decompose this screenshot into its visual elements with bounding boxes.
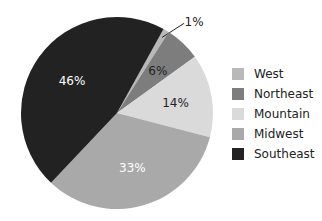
legend-item-southeast: Southeast (232, 144, 315, 164)
slice-label: 6% (148, 64, 167, 78)
slice-label: 33% (119, 161, 146, 175)
legend-label: Midwest (254, 127, 303, 141)
legend-swatch (232, 148, 244, 160)
legend-label: Mountain (254, 107, 310, 121)
legend-swatch (232, 88, 244, 100)
legend-swatch (232, 108, 244, 120)
legend-swatch (232, 68, 244, 80)
legend-label: Northeast (254, 87, 313, 101)
slice-label: 46% (59, 74, 86, 88)
legend-item-northeast: Northeast (232, 84, 315, 104)
legend-item-west: West (232, 64, 315, 84)
legend-label: West (254, 67, 284, 81)
legend-swatch (232, 128, 244, 140)
slice-label: 1% (185, 15, 204, 29)
legend-label: Southeast (254, 147, 315, 161)
legend-item-mountain: Mountain (232, 104, 315, 124)
slice-label: 14% (162, 96, 189, 110)
legend: West Northeast Mountain Midwest Southeas… (232, 64, 315, 164)
legend-item-midwest: Midwest (232, 124, 315, 144)
pie-chart: 1%6%14%33%46% (0, 0, 230, 221)
